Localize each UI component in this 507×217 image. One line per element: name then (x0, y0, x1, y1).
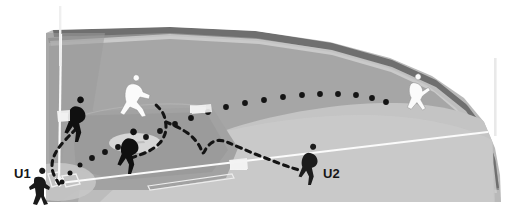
right-foul-pole (494, 58, 497, 136)
ball-path-dot (261, 97, 267, 103)
light-patch-3 (57, 110, 70, 122)
umpire-label-u1: U1 (14, 167, 31, 180)
ball-path-dot (317, 91, 323, 97)
ball-path-dot (223, 104, 229, 110)
ball-path-dot (369, 95, 375, 101)
ball-path-dot (115, 144, 121, 150)
light-patch-2 (229, 158, 248, 170)
ball-path-dot (102, 149, 108, 155)
ball-path-dot (188, 115, 194, 121)
left-foul-pole (59, 6, 61, 66)
ball-path-dot (89, 155, 95, 161)
field-illustration (0, 0, 507, 217)
ball-path-dot (353, 92, 359, 98)
ball-path-dot (383, 99, 389, 105)
ball-path-dot (242, 100, 248, 106)
ball-path-dot (280, 94, 286, 100)
baseball-field-diagram: U1 U2 (0, 0, 507, 217)
ball-path-dot (68, 171, 73, 176)
ball-path-dot (157, 128, 163, 134)
ball-path-dot (299, 92, 305, 98)
umpire-label-u2: U2 (323, 167, 340, 180)
ball-path-dot (335, 91, 341, 97)
ball-path-dot (143, 134, 149, 140)
ball-path-dot (172, 121, 178, 127)
ball-path-dot (78, 163, 83, 168)
ball-path-dot (60, 180, 65, 185)
